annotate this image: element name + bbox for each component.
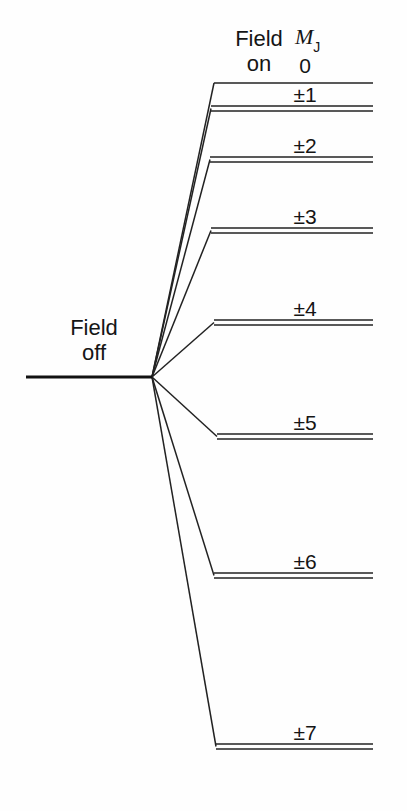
level-label-mj-1: ±1 xyxy=(275,84,335,106)
zeeman-diagram: Field on Field off MJ 0±1±2±3±4±5±6±7 xyxy=(0,0,407,811)
connector-line-mj-3 xyxy=(152,231,211,378)
level-label-mj-7: ±7 xyxy=(275,722,335,744)
mj-symbol: M xyxy=(295,24,313,49)
connector-line-mj-2 xyxy=(152,160,210,378)
connector-line-mj-1 xyxy=(152,109,211,378)
level-label-mj-0: 0 xyxy=(275,55,335,77)
mj-subscript: J xyxy=(313,39,320,55)
level-label-mj-6: ±6 xyxy=(275,551,335,573)
level-label-mj-3: ±3 xyxy=(275,206,335,228)
level-label-mj-2: ±2 xyxy=(275,135,335,157)
connector-line-mj-7 xyxy=(152,377,216,747)
energy-level-svg xyxy=(0,0,407,811)
mj-header: MJ xyxy=(295,24,320,57)
level-label-mj-4: ±4 xyxy=(275,298,335,320)
field-off-label: Field off xyxy=(48,315,140,365)
connector-lines-group xyxy=(152,83,217,747)
connector-line-mj-6 xyxy=(152,377,214,576)
level-label-mj-5: ±5 xyxy=(275,412,335,434)
